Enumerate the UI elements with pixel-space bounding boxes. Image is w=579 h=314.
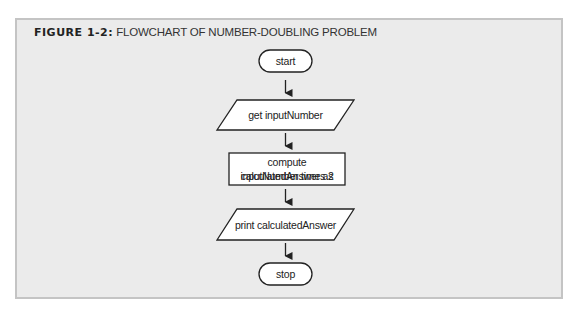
output-node-text: print calculatedAnswer [217, 218, 354, 232]
process-node-text-line2: inputNumber times 2 [229, 169, 345, 183]
input-node-text: get inputNumber [217, 108, 354, 122]
start-node-text: start [259, 54, 312, 68]
stop-node-text: stop [259, 267, 312, 281]
